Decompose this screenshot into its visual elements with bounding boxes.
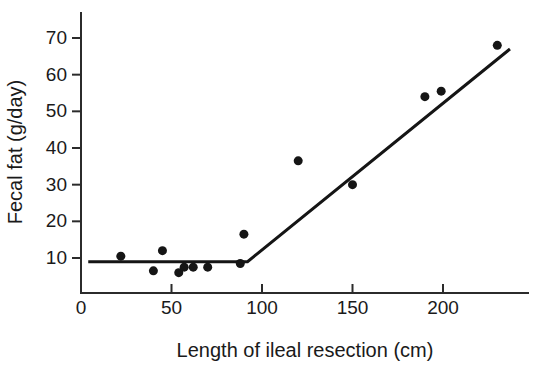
data-point (437, 87, 446, 96)
y-tick-label: 20 (46, 210, 67, 231)
x-axis-ticks: 050100150200 (76, 284, 459, 318)
data-point (180, 263, 189, 272)
plot-area: 10203040506070 050100150200 Length of il… (0, 0, 540, 371)
data-points-group (116, 41, 501, 277)
y-tick-label: 50 (46, 100, 67, 121)
y-tick-label: 40 (46, 137, 67, 158)
data-point (294, 156, 303, 165)
axes (81, 13, 528, 293)
y-axis-title: Fecal fat (g/day) (4, 80, 26, 225)
y-axis-ticks: 10203040506070 (46, 27, 81, 268)
x-tick-label: 50 (161, 297, 182, 318)
data-point (239, 230, 248, 239)
y-tick-label: 70 (46, 27, 67, 48)
data-point (493, 41, 502, 50)
data-point (203, 263, 212, 272)
x-axis-title: Length of ileal resection (cm) (177, 339, 434, 361)
data-point (236, 259, 245, 268)
fitted-line-group (88, 49, 510, 262)
data-point (420, 92, 429, 101)
data-point (116, 252, 125, 261)
x-tick-label: 100 (246, 297, 278, 318)
data-point (158, 246, 167, 255)
y-tick-label: 10 (46, 247, 67, 268)
data-point (348, 180, 357, 189)
y-tick-label: 60 (46, 64, 67, 85)
data-point (189, 263, 198, 272)
x-tick-label: 0 (76, 297, 87, 318)
fitted-line (88, 49, 510, 262)
fecal-fat-scatter-figure: 10203040506070 050100150200 Length of il… (0, 0, 540, 371)
x-tick-label: 150 (337, 297, 369, 318)
data-point (149, 266, 158, 275)
y-tick-label: 30 (46, 174, 67, 195)
x-tick-label: 200 (427, 297, 459, 318)
